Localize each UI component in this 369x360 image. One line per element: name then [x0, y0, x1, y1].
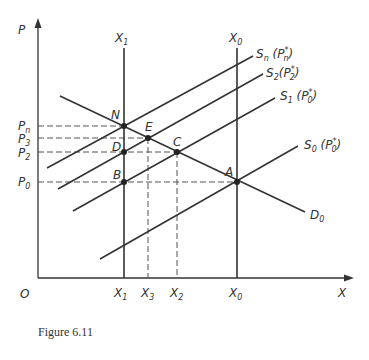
axes: P X O [18, 18, 354, 301]
guide-lines [38, 126, 237, 278]
point-b-label: B [113, 168, 121, 182]
point-n-label: N [111, 108, 120, 122]
x-tick-labels: X1 X3 X2 X0 [113, 286, 242, 302]
y-axis-label: P [18, 23, 26, 37]
curves [47, 56, 305, 259]
x-axis-label: X [337, 286, 347, 300]
figure-6-11-diagram: P X O X1 X0 Sn (P*n) S2(P*2) S1 (P*0) S0… [0, 0, 369, 360]
demand-curve-d0 [60, 96, 305, 212]
point-c [174, 149, 180, 155]
s1-label: S1 (P*0) [280, 88, 317, 105]
points: N E D C B A [111, 108, 240, 185]
point-d-label: D [112, 140, 121, 154]
x1-tick-label: X1 [113, 286, 127, 302]
point-e-label: E [145, 120, 153, 134]
s0-label: S0 (P*0) [304, 137, 341, 154]
point-e [145, 135, 151, 141]
p2-tick-label: P2 [18, 146, 30, 162]
figure-caption: Figure 6.11 [38, 325, 93, 339]
d0-label: D0 [310, 208, 324, 224]
point-n [121, 123, 127, 129]
supply-curve-s1 [73, 98, 275, 211]
s2-label: S2(P*2) [266, 65, 299, 82]
x2-tick-label: X2 [169, 286, 183, 302]
curve-labels: Sn (P*n) S2(P*2) S1 (P*0) S0 (P*0) D0 [256, 46, 341, 224]
point-c-label: C [173, 135, 182, 149]
supply-curve-s0 [100, 146, 298, 259]
x0-tick-label: X0 [228, 286, 242, 302]
point-a-label: A [224, 165, 233, 179]
p0-tick-label: P0 [18, 175, 30, 191]
origin-label: O [20, 287, 29, 301]
x0-top-label: X0 [228, 31, 242, 47]
y-tick-labels: Pn P3 P2 P0 [18, 119, 30, 191]
point-b [121, 179, 127, 185]
supply-curve-sn [47, 56, 253, 168]
point-a [234, 179, 240, 185]
sn-label: Sn (P*n) [256, 46, 293, 63]
x-axis-arrow-icon [344, 275, 354, 282]
x3-tick-label: X3 [140, 286, 154, 302]
y-axis-arrow-icon [35, 18, 42, 28]
x1-top-label: X1 [114, 31, 128, 47]
point-d [121, 149, 127, 155]
